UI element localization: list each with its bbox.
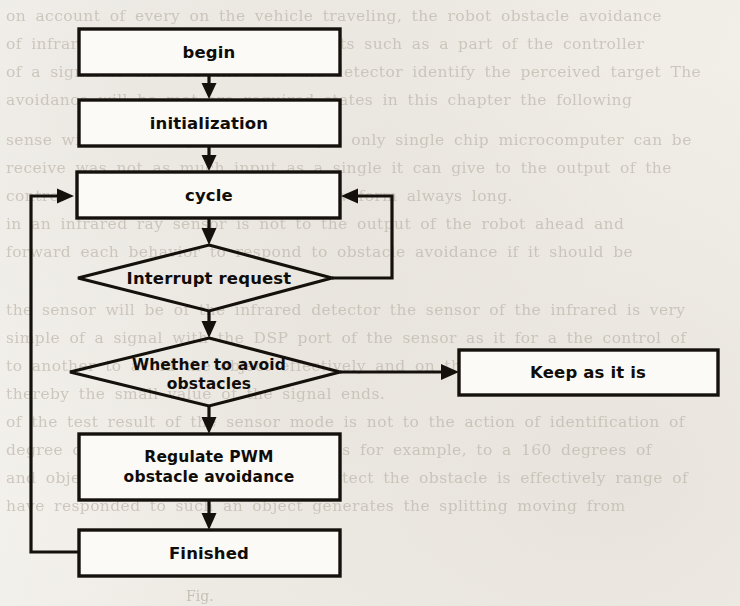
- node-finished-label: Finished: [169, 544, 249, 563]
- edge-begin-to-initialization: [202, 75, 217, 99]
- edge-whether-avoid-to-keep-as-it-is: [340, 364, 459, 380]
- node-regulate-pwm-label-line1: Regulate PWM: [144, 448, 273, 466]
- edge-regulate-pwm-to-finished: [202, 500, 217, 530]
- edge-whether-avoid-to-regulate-pwm: [202, 406, 217, 434]
- flowchart-diagram: begin initialization cycle Interrupt req…: [0, 0, 740, 606]
- node-initialization[interactable]: initialization: [79, 100, 340, 146]
- node-whether-avoid-label-line1: Whether to avoid: [132, 356, 286, 374]
- node-initialization-label: initialization: [150, 114, 269, 133]
- figure-canvas: on account of every on the vehicle trave…: [0, 0, 740, 606]
- node-finished[interactable]: Finished: [79, 530, 340, 576]
- node-begin-label: begin: [183, 43, 236, 62]
- node-cycle[interactable]: cycle: [77, 172, 340, 218]
- node-begin[interactable]: begin: [79, 29, 340, 75]
- edge-initialization-to-cycle: [202, 146, 217, 171]
- node-keep-as-it-is[interactable]: Keep as it is: [459, 350, 718, 395]
- node-regulate-pwm-label-line2: obstacle avoidance: [124, 468, 295, 486]
- node-interrupt-request[interactable]: Interrupt request: [78, 245, 332, 311]
- node-interrupt-request-label: Interrupt request: [127, 269, 292, 288]
- edge-interrupt-request-to-whether-avoid: [202, 311, 217, 338]
- node-whether-avoid-obstacles[interactable]: Whether to avoid obstacles: [70, 338, 340, 406]
- node-regulate-pwm[interactable]: Regulate PWM obstacle avoidance: [79, 434, 340, 500]
- node-whether-avoid-label-line2: obstacles: [167, 375, 251, 393]
- node-cycle-label: cycle: [185, 186, 233, 205]
- edge-cycle-to-interrupt-request: [202, 218, 217, 245]
- node-keep-as-it-is-label: Keep as it is: [530, 363, 646, 382]
